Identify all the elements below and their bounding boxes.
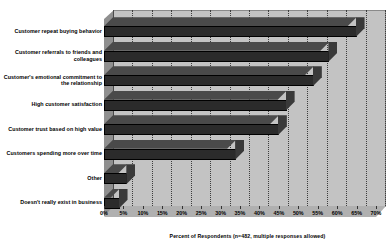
bar-top-face	[104, 115, 279, 124]
x-axis-tick	[123, 206, 124, 209]
x-axis-tick	[143, 206, 144, 209]
gridline	[307, 10, 308, 206]
x-axis-tick	[298, 206, 299, 209]
category-label: Doesn't really exist in business	[0, 199, 102, 206]
x-axis-tick	[376, 206, 377, 209]
gridline	[327, 10, 328, 206]
bar-top-face	[104, 66, 314, 75]
bar-top-face	[104, 140, 236, 149]
x-axis: 0%5%10%15%20%25%30%35%40%45%50%55%60%65%…	[104, 206, 391, 226]
plot-area	[104, 10, 391, 225]
bar-front-face	[104, 173, 127, 184]
category-axis: Customer repeat buying behaviorCustomer …	[0, 12, 104, 208]
category-label: Customer referrals to friends and collea…	[0, 49, 102, 62]
bar	[104, 17, 366, 28]
x-axis-title: Percent of Respondents (n=482, multiple …	[104, 233, 391, 239]
bar	[104, 91, 296, 102]
category-label: Customer repeat buying behavior	[0, 28, 102, 35]
bar-top-face	[104, 164, 127, 173]
bar	[104, 164, 136, 175]
x-axis-tick	[240, 206, 241, 209]
x-axis-tick	[104, 206, 105, 209]
gridline	[366, 10, 367, 206]
bar-top-face	[104, 189, 120, 198]
x-axis-tick	[201, 206, 202, 209]
bar-top-face	[104, 91, 287, 100]
x-axis-tick	[221, 206, 222, 209]
bar-front-face	[104, 100, 287, 111]
x-axis-tick	[279, 206, 280, 209]
gridline	[346, 10, 347, 206]
x-axis-tick	[259, 206, 260, 209]
category-label: Customer trust based on high value	[0, 126, 102, 133]
category-label: High customer satisfaction	[0, 101, 102, 108]
bar-chart: Customer repeat buying behaviorCustomer …	[0, 0, 391, 247]
category-label: Customers spending more over time	[0, 150, 102, 157]
x-axis-tick	[182, 206, 183, 209]
bar-front-face	[104, 124, 279, 135]
bar	[104, 42, 338, 53]
bar-front-face	[104, 51, 329, 62]
x-axis-tick	[162, 206, 163, 209]
bar	[104, 140, 245, 151]
bar-top-face	[104, 42, 329, 51]
bar	[104, 115, 288, 126]
x-axis-tick	[337, 206, 338, 209]
bar-front-face	[104, 149, 236, 160]
x-axis-tick	[357, 206, 358, 209]
bar-front-face	[104, 75, 314, 86]
bar	[104, 189, 129, 200]
category-label: Customer's emotional commitment to the r…	[0, 74, 102, 87]
x-axis-tick-label: 70%	[364, 210, 388, 216]
bar-front-face	[104, 26, 357, 37]
x-axis-tick	[318, 206, 319, 209]
category-label: Other	[0, 175, 102, 182]
bar-top-face	[104, 17, 357, 26]
gridline	[385, 10, 386, 206]
bar	[104, 66, 323, 77]
